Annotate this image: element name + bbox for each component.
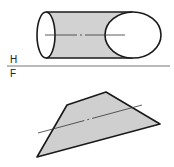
projection-diagram: H F: [0, 0, 174, 167]
label-h: H: [10, 54, 17, 65]
label-f: F: [10, 68, 16, 79]
trapezoid-section: [37, 92, 160, 157]
cylinder: [37, 12, 161, 58]
